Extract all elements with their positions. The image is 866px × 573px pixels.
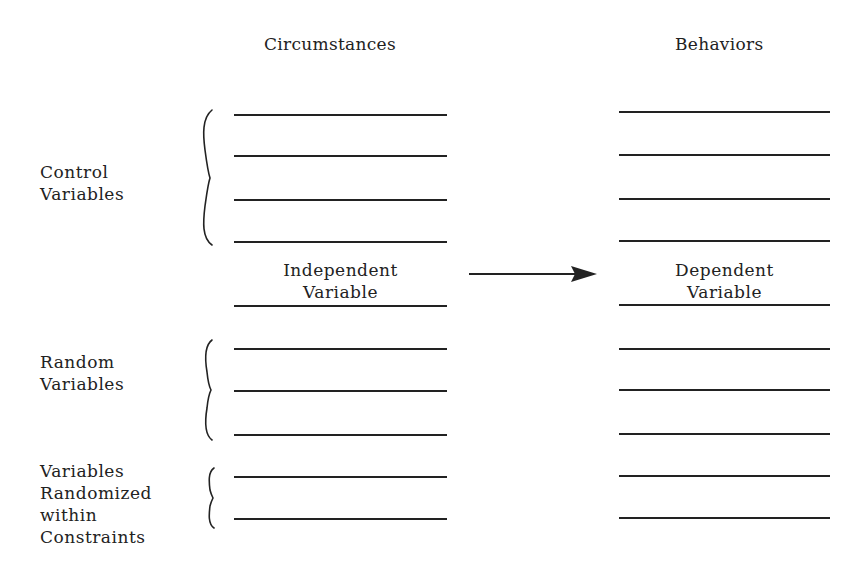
control-brace-icon [204,110,212,245]
diagram-graphics [0,0,866,573]
arrow-icon [469,266,597,282]
random-brace-icon [206,340,212,440]
constrained-brace-icon [209,468,214,528]
